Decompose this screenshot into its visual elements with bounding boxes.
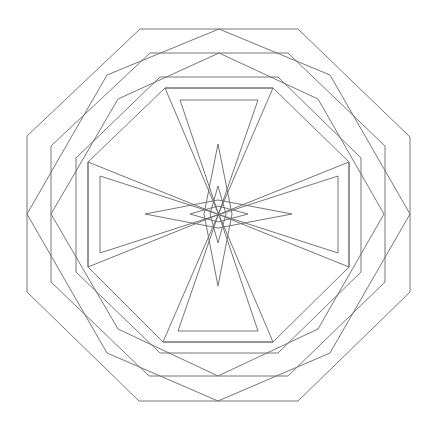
vertical-hourglass-inner [178,100,258,331]
shape-group [27,29,410,401]
horizontal-hourglass-inner [100,176,338,253]
geometric-figure [0,0,437,426]
